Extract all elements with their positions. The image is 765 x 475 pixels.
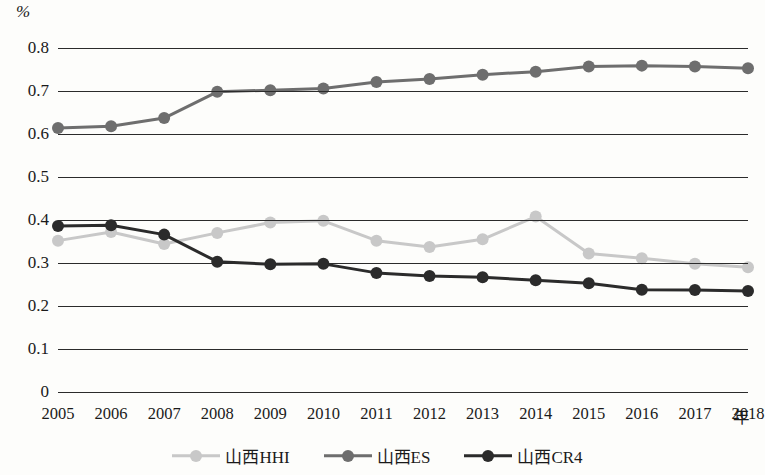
y-axis-tick-label: 0 [41,382,50,402]
data-point-marker [158,112,170,124]
data-point-marker [689,284,701,296]
data-point-marker [211,256,223,268]
data-point-marker [317,82,329,94]
data-point-marker [52,220,64,232]
data-point-marker [52,122,64,134]
data-point-marker [530,66,542,78]
x-axis-tick-label: 2017 [678,404,711,424]
data-point-marker [158,229,170,241]
gridline [58,220,748,221]
x-axis-unit-label: 年 [733,404,750,428]
gridline [58,91,748,92]
x-axis-tick-label: 2015 [572,404,605,424]
gridline [58,263,748,264]
data-point-marker [583,277,595,289]
x-axis-tick-label: 2011 [360,404,392,424]
x-axis: 2005200620072008200920102011201220132014… [58,404,748,426]
x-axis-tick-label: 2005 [42,404,75,424]
x-axis-tick-label: 2006 [95,404,128,424]
chart-legend: 山西HHI山西ES山西CR4 [0,443,755,468]
x-axis-tick-label: 2009 [254,404,287,424]
data-point-marker [636,284,648,296]
legend-item[interactable]: 山西ES [324,443,431,468]
y-axis-tick-label: 0.4 [28,210,49,230]
data-point-marker [370,76,382,88]
legend-swatch-icon [324,449,372,463]
data-point-marker [477,233,489,245]
y-axis-unit-label: % [16,2,30,22]
data-point-marker [636,60,648,72]
x-axis-tick-label: 2010 [307,404,340,424]
y-axis-tick-label: 0.6 [28,124,49,144]
legend-item[interactable]: 山西CR4 [464,443,582,468]
gridline [58,349,748,350]
data-point-marker [105,120,117,132]
y-axis-tick-label: 0.2 [28,296,49,316]
gridline [58,134,748,135]
gridline [58,306,748,307]
legend-item-label: 山西CR4 [517,443,582,468]
data-point-marker [689,60,701,72]
data-point-marker [742,285,754,297]
data-point-marker [424,270,436,282]
y-axis-tick-label: 0.8 [28,38,49,58]
gridline [58,392,748,393]
legend-item-label: 山西HHI [225,443,289,468]
gridline [58,48,748,49]
data-point-marker [370,267,382,279]
plot-area: 0.80.70.60.50.40.30.20.10 [58,48,748,392]
data-point-marker [424,73,436,85]
data-point-marker [477,69,489,81]
data-point-marker [211,227,223,239]
data-point-marker [424,241,436,253]
legend-item-label: 山西ES [377,443,431,468]
data-point-marker [583,248,595,260]
x-axis-tick-label: 2012 [413,404,446,424]
data-point-marker [583,60,595,72]
legend-swatch-icon [464,449,512,463]
legend-item[interactable]: 山西HHI [172,443,289,468]
x-axis-tick-label: 2008 [201,404,234,424]
y-axis-tick-label: 0.7 [28,81,49,101]
y-axis-tick-label: 0.3 [28,253,49,273]
x-axis-tick-label: 2013 [466,404,499,424]
data-point-marker [742,62,754,74]
data-point-marker [264,217,276,229]
data-point-marker [370,235,382,247]
y-axis-tick-label: 0.1 [28,339,49,359]
y-axis-tick-label: 0.5 [28,167,49,187]
gridline [58,177,748,178]
legend-swatch-icon [172,449,220,463]
x-axis-tick-label: 2014 [519,404,552,424]
data-point-marker [477,271,489,283]
data-point-marker [530,274,542,286]
x-axis-tick-label: 2007 [148,404,181,424]
x-axis-tick-label: 2016 [625,404,658,424]
data-point-marker [52,235,64,247]
data-point-marker [264,258,276,270]
